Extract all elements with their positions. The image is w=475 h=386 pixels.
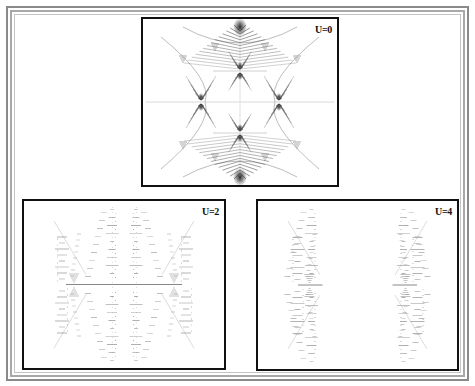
panel-label-u2: U=2 (202, 206, 219, 217)
butterfly-pattern-u0 (143, 19, 337, 185)
panel-u0: U=0 (141, 17, 339, 187)
butterfly-pattern-u4 (258, 201, 457, 369)
butterfly-pattern-u2 (24, 201, 224, 368)
panel-label-u0: U=0 (315, 24, 332, 35)
panel-u2: U=2 (22, 199, 226, 370)
panel-u4: U=4 (256, 199, 459, 371)
panel-label-u4: U=4 (435, 206, 452, 217)
